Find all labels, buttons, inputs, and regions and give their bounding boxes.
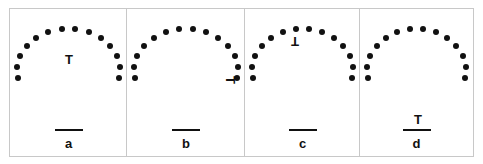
arc-dot [33,35,39,41]
arc-dot [349,75,355,81]
arc-dot [17,53,23,59]
arc-dot [151,35,157,41]
arc-dot [252,53,258,59]
panel-label: d [413,137,421,150]
arc-dot [107,43,113,49]
arc-dot [407,26,413,32]
arc-dot [365,75,371,81]
t-symbol: T [414,113,422,126]
panel-b: Tb [127,9,245,156]
arc-dot [176,26,182,32]
arc-dot [141,43,147,49]
arc-dot [131,64,137,70]
arc-dot [280,29,286,35]
arc-dot [215,35,221,41]
arc-dot [350,64,356,70]
arc-dot [331,35,337,41]
panel-a: Ta [10,9,127,156]
arc-dot [250,75,256,81]
arc-dot [319,29,325,35]
arc-dot [367,53,373,59]
arc-dot [383,35,389,41]
arc-dot [235,64,241,70]
panel-d: Td [360,9,473,156]
arc-dot [15,75,21,81]
arc-dot [249,64,255,70]
arc-dot [293,26,299,32]
arc-dot [114,53,120,59]
arc-dot [24,43,30,49]
arc-dot [72,26,78,32]
arc-dot [306,26,312,32]
arc-dot [14,64,20,70]
arc-dot [374,43,380,49]
arc-dot [116,75,122,81]
arc-dot [86,29,92,35]
arc-dot [364,64,370,70]
arc-dot [98,35,104,41]
arc-dot [433,29,439,35]
arc-dot [225,43,231,49]
underline-bar [55,129,83,131]
arc-dot [462,75,468,81]
arc-dot [460,53,466,59]
arc-dot [203,29,209,35]
arc-dot [340,43,346,49]
arc-dot [420,26,426,32]
panel-label: c [299,137,306,150]
arc-dot [59,26,65,32]
arc-dot [259,43,265,49]
t-symbol: T [65,53,73,66]
panel-label: a [65,137,72,150]
arc-dot [117,64,123,70]
arc-dot [190,26,196,32]
arc-dot [394,29,400,35]
arc-dot [163,29,169,35]
arc-dot [444,35,450,41]
arc-dot [45,29,51,35]
underline-bar [403,129,431,131]
arc-dot [453,43,459,49]
t-symbol: T [291,35,299,48]
underline-bar [172,129,200,131]
panel-label: b [182,137,190,150]
panel-c: Tc [245,9,360,156]
arc-dot [132,75,138,81]
underline-bar [289,129,317,131]
arc-dot [347,53,353,59]
arc-dot [232,53,238,59]
arc-dot [134,53,140,59]
figure-frame: TaTbTcTd [9,8,474,157]
arc-dot [463,64,469,70]
arc-dot [268,35,274,41]
t-symbol: T [224,76,237,84]
